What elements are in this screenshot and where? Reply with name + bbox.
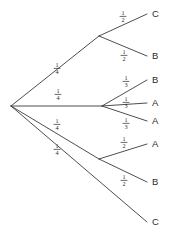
fraction-numerator: 1: [122, 48, 125, 55]
leaf-label-b-upper: B: [152, 50, 158, 61]
fraction-numerator: 1: [122, 135, 125, 142]
fraction-numerator: 1: [55, 117, 58, 124]
leaf-label-c-bottom: C: [152, 216, 159, 227]
fraction-denominator: 4: [56, 94, 59, 101]
probability-label-b2: 1 4: [55, 87, 62, 102]
leaf-label-b-bottom: B: [152, 176, 158, 187]
fraction-denominator: 3: [124, 81, 127, 88]
leaf-label-a-bottom: A: [152, 138, 159, 149]
probability-tree-diagram: 1 4 1 4 1 4 1 4 1 2 1 2: [0, 0, 171, 234]
fraction-denominator: 2: [122, 142, 125, 149]
leaf-labels: C B B A A A B C: [152, 8, 159, 227]
probability-label-b6: 1 2: [121, 48, 128, 63]
probability-label-b3: 1 4: [54, 117, 61, 132]
tree-svg: 1 4 1 4 1 4 1 4 1 2 1 2: [0, 0, 171, 234]
probability-label-b11: 1 2: [121, 173, 128, 188]
fraction-denominator: 3: [124, 123, 127, 130]
fraction-denominator: 4: [55, 124, 58, 131]
fraction-numerator: 1: [55, 142, 58, 149]
fraction-numerator: 1: [124, 95, 127, 102]
probability-label-b5: 1 2: [120, 9, 127, 24]
fraction-numerator: 1: [55, 61, 58, 68]
probability-label-b8: 1 3: [123, 95, 130, 110]
fraction-denominator: 2: [122, 180, 125, 187]
probability-label-b10: 1 2: [121, 135, 128, 150]
fraction-denominator: 4: [55, 68, 58, 75]
probability-label-b7: 1 3: [123, 74, 130, 89]
fraction-denominator: 3: [124, 102, 127, 109]
fraction-denominator: 4: [55, 149, 58, 156]
leaf-label-c-top: C: [152, 8, 159, 19]
leaf-label-a-lower: A: [152, 115, 159, 126]
leaf-label-a-mid: A: [152, 97, 159, 108]
fraction-numerator: 1: [124, 74, 127, 81]
probability-label-b4: 1 4: [54, 142, 61, 157]
probability-label-b9: 1 3: [123, 116, 130, 131]
fraction-numerator: 1: [56, 87, 59, 94]
fraction-denominator: 2: [122, 55, 125, 62]
fraction-numerator: 1: [121, 9, 124, 16]
fraction-denominator: 2: [121, 16, 124, 23]
fraction-numerator: 1: [124, 116, 127, 123]
leaf-label-b-mid: B: [152, 74, 158, 85]
fraction-numerator: 1: [122, 173, 125, 180]
